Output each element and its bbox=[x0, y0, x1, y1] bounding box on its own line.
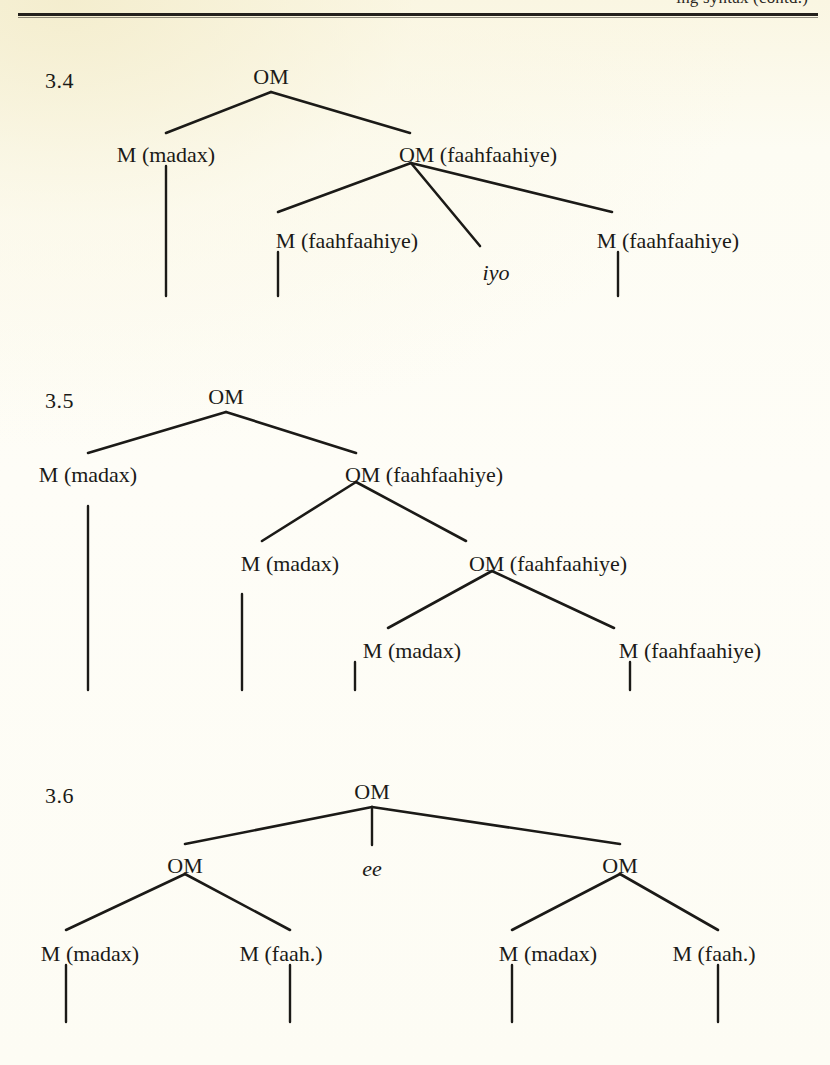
branch-line bbox=[66, 874, 185, 930]
tree-node-root: OM bbox=[354, 781, 389, 803]
scanned-page: ing syntax (contd.) 3.4OMM (madax)OM (fa… bbox=[0, 0, 830, 1065]
tree-node-n5: M (faah.) bbox=[239, 943, 322, 965]
branch-line bbox=[512, 874, 620, 930]
tree-branches bbox=[0, 0, 830, 1065]
tree-node-n4: M (madax) bbox=[41, 943, 139, 965]
branch-line bbox=[185, 807, 372, 844]
branch-line bbox=[185, 874, 290, 930]
branch-line bbox=[372, 807, 620, 844]
tree-node-n1: OM bbox=[167, 855, 202, 877]
tree-node-n6: M (faah.) bbox=[672, 943, 755, 965]
tree-node-n7: M (madax) bbox=[499, 943, 597, 965]
branch-line bbox=[620, 874, 718, 930]
tree-node-n3: OM bbox=[602, 855, 637, 877]
tree-node-n2: ee bbox=[362, 858, 382, 880]
